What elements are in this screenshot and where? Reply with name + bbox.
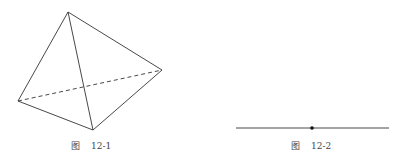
point-on-line [310,126,314,130]
diagram-canvas: 图 12-1 图 12-2 [0,0,402,161]
figure-12-2-caption-number: 12-2 [311,141,331,151]
figure-12-1-caption-number: 12-1 [91,141,111,151]
figure-12-1-caption-prefix: 图 [71,141,80,151]
edge-bottom-right [93,70,162,130]
edge-top-left [18,12,68,101]
figure-12-2-caption-prefix: 图 [291,141,300,151]
figure-12-2 [236,126,389,130]
edge-top-bottom [68,12,93,130]
edge-left-bottom [18,101,93,130]
figure-12-1 [18,12,162,130]
edge-top-right [68,12,162,70]
hidden-edge-left-right [18,70,162,101]
